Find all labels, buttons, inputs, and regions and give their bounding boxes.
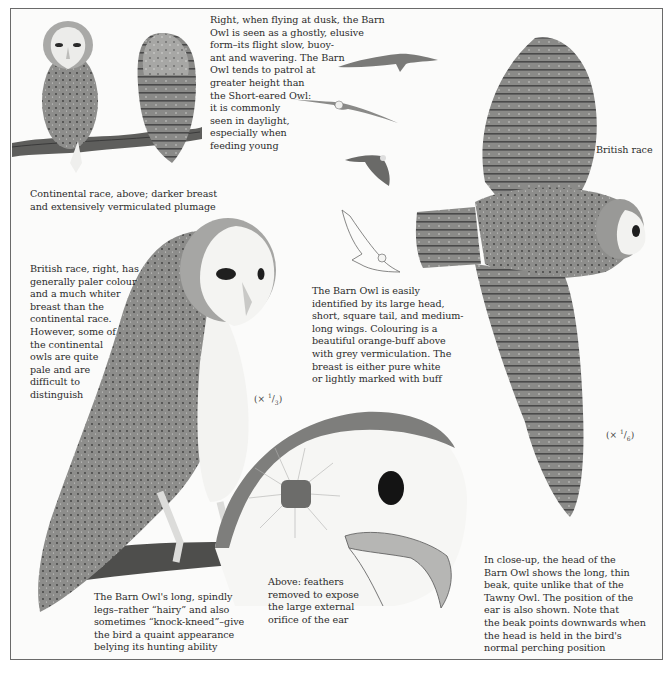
caption-ear-orifice: Above: feathers removed to expose the la…: [268, 576, 359, 626]
caption-flight-at-dusk: Right, when flying at dusk, the Barn Owl…: [210, 14, 385, 153]
caption-identification: The Barn Owl is easily identified by its…: [312, 285, 464, 386]
caption-legs: The Barn Owl's long, spindly legs–rather…: [94, 591, 244, 654]
flight-silhouette-4: [338, 210, 400, 276]
continental-owls-illustration: [12, 15, 202, 175]
scale-label-flying: (× 1/6): [606, 428, 634, 442]
flight-silhouette-3: [345, 152, 395, 188]
caption-closeup-head: In close-up, the head of the Barn Owl sh…: [484, 554, 646, 655]
scale-label-perched: (× 1/3): [254, 392, 282, 406]
caption-british-race-label: British race: [596, 144, 653, 157]
caption-continental-race: Continental race, above; darker breast a…: [30, 188, 217, 213]
caption-british-race-description: British race, right, has generally paler…: [30, 263, 139, 402]
